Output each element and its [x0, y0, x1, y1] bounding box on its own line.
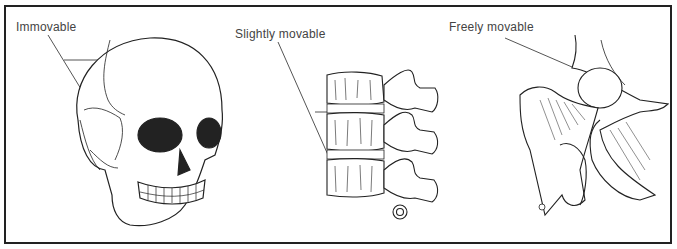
vertebrae-illustration	[327, 70, 438, 219]
diagram-canvas	[0, 0, 677, 249]
leader-line-freely-movable	[505, 38, 572, 67]
intervertebral-disc-1	[327, 104, 384, 113]
spinous-process-3	[384, 159, 438, 202]
spinous-process-2	[384, 112, 438, 154]
intervertebral-disc-2	[327, 150, 384, 159]
copyright-mark	[539, 204, 545, 210]
hip-joint-illustration	[520, 35, 668, 215]
spinous-process-1	[384, 70, 438, 112]
left-orbit	[138, 118, 182, 152]
skull-illustration	[77, 38, 223, 226]
femoral-head	[578, 68, 622, 108]
leader-line-slightly-movable	[278, 42, 328, 155]
right-orbit	[197, 118, 221, 148]
